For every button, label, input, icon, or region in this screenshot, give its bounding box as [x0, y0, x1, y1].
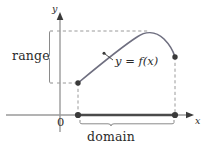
diagram-canvas — [0, 0, 205, 148]
curve-left-endpoint-dot — [75, 80, 80, 85]
range-label: range — [12, 50, 50, 63]
function-equation-fx: f(x) — [138, 54, 158, 68]
domain-left-endpoint-dot — [75, 112, 81, 118]
y-axis-arrowhead — [57, 12, 64, 20]
domain-label: domain — [87, 131, 135, 144]
x-axis-label: x — [195, 116, 200, 126]
origin-label: 0 — [57, 117, 64, 129]
x-axis-arrowhead — [186, 112, 194, 119]
function-diagram: range domain 0 y x y = f(x) — [0, 0, 205, 148]
y-axis-label: y — [52, 4, 57, 14]
curve-right-endpoint-dot — [172, 54, 177, 59]
function-equation-label: y = f(x) — [115, 56, 158, 68]
function-equation-equals: = — [122, 54, 139, 68]
dashed-guides — [57, 31, 175, 114]
domain-right-endpoint-dot — [172, 112, 178, 118]
y-axis — [57, 12, 64, 132]
domain-brace — [80, 120, 174, 126]
